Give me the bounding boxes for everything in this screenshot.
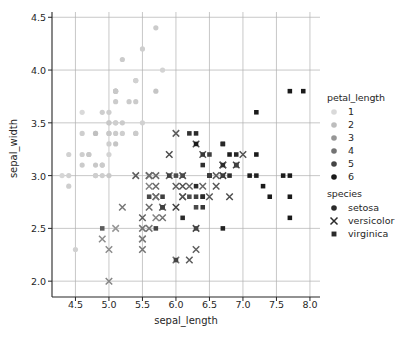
circle-marker-icon [328,171,340,183]
point-marker-versicolor [153,193,160,200]
legend-item-petal-length[interactable]: 3 [326,131,398,144]
point-marker-setosa [66,152,71,157]
circle-marker-icon [328,132,340,144]
legend-item-species[interactable]: versicolor [326,214,398,227]
legend-item-petal-length[interactable]: 2 [326,118,398,131]
point-marker-setosa [113,120,118,125]
point-marker-setosa [126,99,131,104]
legend-label: 5 [348,157,354,170]
legend-item-petal-length[interactable]: 5 [326,157,398,170]
point-marker-setosa [100,110,105,115]
legend-item-species[interactable]: setosa [326,201,398,214]
legend-swatch [326,227,342,240]
point-marker-virginica [207,173,212,178]
legend: petal_length 123456 species setosaversic… [326,92,398,240]
point-marker-versicolor [133,172,140,179]
point-marker-virginica [221,173,226,178]
point-marker-virginica [288,216,293,221]
point-marker-setosa [133,99,138,104]
point-marker-setosa [331,148,337,154]
point-marker-virginica [180,173,185,178]
point-marker-setosa [100,162,105,167]
point-marker-setosa [86,152,91,157]
point-marker-versicolor [173,130,180,137]
point-marker-virginica [221,142,226,147]
point-marker-virginica [154,226,159,231]
point-marker-virginica [194,194,199,199]
legend-item-petal-length[interactable]: 6 [326,170,398,183]
circle-marker-icon [328,202,340,214]
point-marker-setosa [93,162,98,167]
point-marker-virginica [301,89,306,94]
y-axis-label: sepal_width [8,89,19,209]
point-marker-setosa [100,173,105,178]
point-marker-virginica [254,173,259,178]
legend-item-petal-length[interactable]: 4 [326,144,398,157]
point-marker-virginica [187,194,192,199]
point-marker-setosa [160,67,165,72]
point-marker-setosa [331,109,337,115]
point-marker-versicolor [173,204,180,211]
point-marker-virginica [187,131,192,136]
point-marker-setosa [80,131,85,136]
point-marker-virginica [200,152,205,157]
point-marker-versicolor [186,257,193,264]
point-marker-versicolor [186,183,193,190]
point-marker-virginica [288,173,293,178]
point-marker-versicolor [119,204,126,211]
point-marker-virginica [100,226,105,231]
point-marker-setosa [331,122,337,128]
point-marker-setosa [80,162,85,167]
point-marker-virginica [227,173,232,178]
legend-item-species[interactable]: virginica [326,227,398,240]
point-marker-virginica [194,184,199,189]
data-points-layer [52,12,320,297]
point-marker-versicolor [99,236,106,243]
point-marker-versicolor [179,193,186,200]
point-marker-setosa [331,205,337,211]
y-tick-label: 2.5 [31,223,46,234]
legend-group-species: species setosaversicolorvirginica [326,188,398,240]
point-marker-setosa [153,25,158,30]
point-marker-setosa [106,173,111,178]
point-marker-versicolor [206,193,213,200]
legend-swatch [326,201,342,214]
legend-swatch [326,170,342,183]
point-marker-virginica [160,194,165,199]
point-marker-virginica [200,205,205,210]
point-marker-setosa [93,173,98,178]
point-marker-virginica [180,216,185,221]
point-marker-versicolor [146,183,153,190]
point-marker-versicolor [106,278,113,285]
point-marker-virginica [167,173,172,178]
point-marker-virginica [267,194,272,199]
point-marker-virginica [221,163,226,168]
point-marker-versicolor [240,151,247,158]
legend-group-petal-length: petal_length 123456 [326,92,398,183]
point-marker-versicolor [159,215,166,222]
point-marker-versicolor [139,215,146,222]
point-marker-setosa [113,141,118,146]
legend-swatch [326,214,342,227]
point-marker-versicolor [139,236,146,243]
x-tick-label: 8.0 [302,299,317,310]
point-marker-setosa [153,89,158,94]
x-marker-icon [328,215,340,227]
legend-item-petal-length[interactable]: 1 [326,105,398,118]
point-marker-versicolor [213,183,220,190]
point-marker-virginica [200,194,205,199]
circle-marker-icon [328,158,340,170]
circle-marker-icon [328,106,340,118]
point-marker-virginica [234,152,239,157]
point-marker-versicolor [139,246,146,253]
x-tick-label: 5.0 [101,299,116,310]
point-marker-versicolor [146,172,153,179]
point-marker-setosa [331,135,337,141]
point-marker-virginica [174,258,179,263]
point-marker-setosa [80,152,85,157]
point-marker-virginica [194,131,199,136]
circle-marker-icon [328,119,340,131]
point-marker-virginica [281,173,286,178]
point-marker-setosa [331,174,337,180]
legend-swatch [326,144,342,157]
